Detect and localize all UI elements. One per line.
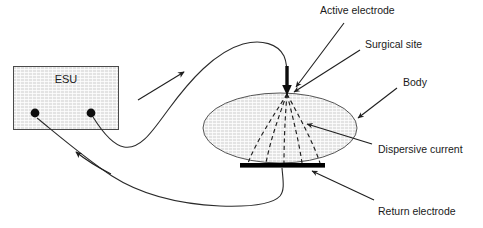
- esu-generator: ESU: [14, 67, 119, 130]
- return-electrode-leader: [312, 171, 374, 200]
- active-electrode-label: Active electrode: [320, 4, 395, 16]
- return-electrode-label: Return electrode: [378, 205, 456, 217]
- esu-diagram: ESU: [0, 0, 483, 228]
- body-leader: [358, 88, 397, 118]
- body-shape: [203, 93, 357, 163]
- body-label: Body: [403, 76, 428, 88]
- diagram-canvas: ESU: [0, 0, 483, 228]
- esu-label: ESU: [55, 73, 78, 85]
- active-terminal: [87, 109, 96, 118]
- dispersive-current-label: Dispersive current: [378, 143, 463, 155]
- surgical-site-leader: [294, 50, 360, 92]
- surgical-site-label: Surgical site: [365, 38, 422, 50]
- current-direction-out: [138, 72, 184, 100]
- return-electrode-bar: [240, 163, 325, 168]
- active-electrode-arrow: [282, 66, 292, 96]
- return-terminal: [31, 109, 40, 118]
- body-ellipse: [203, 93, 357, 163]
- active-electrode-leader: [296, 23, 344, 87]
